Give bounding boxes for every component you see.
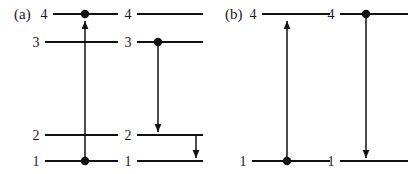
energy-level-label-2: 2 bbox=[33, 128, 40, 143]
energy-level-label-4: 4 bbox=[125, 7, 132, 22]
energy-level-canvas: (a)43214321(b)4141 bbox=[0, 0, 415, 174]
electron-dot-level-4 bbox=[362, 10, 370, 18]
energy-level-label-2: 2 bbox=[125, 128, 132, 143]
energy-level-label-1: 1 bbox=[328, 154, 335, 169]
subpanel-a-left: 4321 bbox=[33, 7, 119, 169]
subpanel-a-right: 4321 bbox=[125, 7, 204, 169]
panel-b: (b)4141 bbox=[225, 6, 408, 169]
panel-label-b: (b) bbox=[225, 6, 243, 23]
energy-level-label-1: 1 bbox=[33, 154, 40, 169]
electron-dot-level-3 bbox=[154, 38, 162, 46]
transition-arrowhead-excitation-1-to-4 bbox=[82, 21, 89, 29]
energy-level-label-3: 3 bbox=[125, 35, 132, 50]
subpanel-b-left: 41 bbox=[240, 7, 331, 169]
energy-level-figure: (a)43214321(b)4141 bbox=[0, 0, 415, 174]
panel-a: (a)43214321 bbox=[14, 6, 203, 169]
energy-level-label-3: 3 bbox=[33, 35, 40, 50]
energy-level-label-1: 1 bbox=[240, 154, 247, 169]
electron-dot-level-4 bbox=[81, 10, 89, 18]
panel-label-a: (a) bbox=[14, 6, 31, 23]
transition-arrowhead-decay-3-to-2 bbox=[155, 124, 162, 132]
transition-arrowhead-decay-2-to-1 bbox=[193, 150, 200, 158]
transition-arrowhead-decay-4-to-1 bbox=[363, 150, 370, 158]
energy-level-label-4: 4 bbox=[328, 7, 335, 22]
energy-level-label-1: 1 bbox=[125, 154, 132, 169]
energy-level-label-4: 4 bbox=[250, 7, 257, 22]
electron-dot-level-1 bbox=[283, 157, 291, 165]
electron-dot-level-1 bbox=[81, 157, 89, 165]
energy-level-label-4: 4 bbox=[41, 7, 48, 22]
subpanel-b-right: 41 bbox=[328, 7, 409, 169]
transition-arrowhead-excitation-1-to-4 bbox=[284, 21, 291, 29]
